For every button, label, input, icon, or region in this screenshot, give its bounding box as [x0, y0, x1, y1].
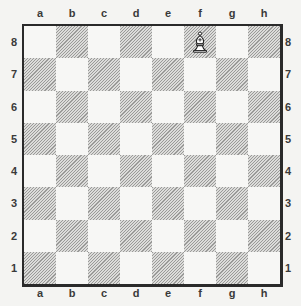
- rank-label-1-left: 1: [8, 252, 20, 284]
- square-a4[interactable]: [24, 155, 56, 187]
- square-a8[interactable]: [24, 26, 56, 58]
- square-d2[interactable]: [120, 220, 152, 252]
- rank-label-6-right: 6: [282, 91, 294, 123]
- rank-label-8-left: 8: [8, 26, 20, 58]
- square-b7[interactable]: [56, 58, 88, 90]
- rank-label-3-right: 3: [282, 187, 294, 219]
- chess-board[interactable]: [22, 24, 283, 287]
- square-b2[interactable]: [56, 220, 88, 252]
- square-h4[interactable]: [248, 155, 280, 187]
- rank-label-4-right: 4: [282, 155, 294, 187]
- square-c1[interactable]: [88, 252, 120, 284]
- rank-label-8-right: 8: [282, 26, 294, 58]
- square-f7[interactable]: [184, 58, 216, 90]
- square-e3[interactable]: [152, 187, 184, 219]
- square-h2[interactable]: [248, 220, 280, 252]
- file-label-b-bottom: b: [56, 287, 88, 299]
- file-label-g-bottom: g: [216, 287, 248, 299]
- file-label-d-bottom: d: [120, 287, 152, 299]
- square-b4[interactable]: [56, 155, 88, 187]
- square-d4[interactable]: [120, 155, 152, 187]
- square-c3[interactable]: [88, 187, 120, 219]
- square-b6[interactable]: [56, 91, 88, 123]
- square-e4[interactable]: [152, 155, 184, 187]
- square-g6[interactable]: [216, 91, 248, 123]
- square-g8[interactable]: [216, 26, 248, 58]
- square-h6[interactable]: [248, 91, 280, 123]
- square-f5[interactable]: [184, 123, 216, 155]
- square-d3[interactable]: [120, 187, 152, 219]
- file-label-h-bottom: h: [248, 287, 280, 299]
- square-g7[interactable]: [216, 58, 248, 90]
- rank-label-7-right: 7: [282, 58, 294, 90]
- file-label-b-top: b: [56, 7, 88, 19]
- square-a1[interactable]: [24, 252, 56, 284]
- rank-label-4-left: 4: [8, 155, 20, 187]
- rank-label-1-right: 1: [282, 252, 294, 284]
- file-label-h-top: h: [248, 7, 280, 19]
- square-e2[interactable]: [152, 220, 184, 252]
- square-d1[interactable]: [120, 252, 152, 284]
- square-f4[interactable]: [184, 155, 216, 187]
- square-g4[interactable]: [216, 155, 248, 187]
- square-e5[interactable]: [152, 123, 184, 155]
- square-c2[interactable]: [88, 220, 120, 252]
- square-b1[interactable]: [56, 252, 88, 284]
- square-d7[interactable]: [120, 58, 152, 90]
- square-b5[interactable]: [56, 123, 88, 155]
- square-c7[interactable]: [88, 58, 120, 90]
- rank-label-5-right: 5: [282, 123, 294, 155]
- rank-label-2-right: 2: [282, 220, 294, 252]
- rank-label-7-left: 7: [8, 58, 20, 90]
- file-label-c-bottom: c: [88, 287, 120, 299]
- file-label-f-bottom: f: [184, 287, 216, 299]
- square-a5[interactable]: [24, 123, 56, 155]
- square-a6[interactable]: [24, 91, 56, 123]
- file-label-f-top: f: [184, 7, 216, 19]
- rank-label-3-left: 3: [8, 187, 20, 219]
- file-label-a-top: a: [24, 7, 56, 19]
- file-label-e-bottom: e: [152, 287, 184, 299]
- square-f2[interactable]: [184, 220, 216, 252]
- square-b8[interactable]: [56, 26, 88, 58]
- square-g1[interactable]: [216, 252, 248, 284]
- square-c6[interactable]: [88, 91, 120, 123]
- file-label-c-top: c: [88, 7, 120, 19]
- rank-label-5-left: 5: [8, 123, 20, 155]
- square-g5[interactable]: [216, 123, 248, 155]
- square-h8[interactable]: [248, 26, 280, 58]
- square-a2[interactable]: [24, 220, 56, 252]
- file-label-e-top: e: [152, 7, 184, 19]
- square-h7[interactable]: [248, 58, 280, 90]
- square-f8[interactable]: [184, 26, 216, 58]
- square-b3[interactable]: [56, 187, 88, 219]
- square-e1[interactable]: [152, 252, 184, 284]
- file-label-d-top: d: [120, 7, 152, 19]
- square-f6[interactable]: [184, 91, 216, 123]
- white-bishop-icon[interactable]: [184, 26, 216, 58]
- square-e6[interactable]: [152, 91, 184, 123]
- square-d6[interactable]: [120, 91, 152, 123]
- square-h1[interactable]: [248, 252, 280, 284]
- square-d8[interactable]: [120, 26, 152, 58]
- square-c5[interactable]: [88, 123, 120, 155]
- square-g3[interactable]: [216, 187, 248, 219]
- square-h3[interactable]: [248, 187, 280, 219]
- square-f1[interactable]: [184, 252, 216, 284]
- square-h5[interactable]: [248, 123, 280, 155]
- square-a7[interactable]: [24, 58, 56, 90]
- square-c4[interactable]: [88, 155, 120, 187]
- square-e7[interactable]: [152, 58, 184, 90]
- square-d5[interactable]: [120, 123, 152, 155]
- square-c8[interactable]: [88, 26, 120, 58]
- square-g2[interactable]: [216, 220, 248, 252]
- file-label-g-top: g: [216, 7, 248, 19]
- rank-label-2-left: 2: [8, 220, 20, 252]
- square-e8[interactable]: [152, 26, 184, 58]
- file-label-a-bottom: a: [24, 287, 56, 299]
- square-f3[interactable]: [184, 187, 216, 219]
- square-a3[interactable]: [24, 187, 56, 219]
- rank-label-6-left: 6: [8, 91, 20, 123]
